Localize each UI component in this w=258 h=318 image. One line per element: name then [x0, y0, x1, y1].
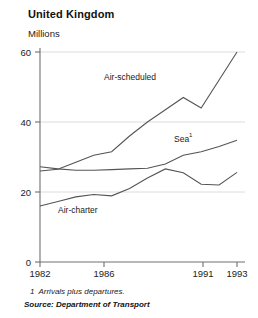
y-tick-label-20: 20 — [20, 187, 31, 198]
y-tick-label-0: 0 — [26, 257, 31, 268]
y-tick-label-60: 60 — [20, 47, 31, 58]
source-note: Source: Department of Transport — [24, 300, 150, 309]
footnote-marker: 1 — [30, 287, 34, 296]
x-tick-label-1991: 1991 — [192, 268, 213, 279]
footnote-text: Arrivals plus departures. — [38, 287, 124, 296]
x-tick-label-1986: 1986 — [93, 268, 114, 279]
x-tick-label-1993: 1993 — [226, 268, 247, 279]
series-label-sea: Sea — [174, 134, 189, 144]
footnote: 1Arrivals plus departures. — [30, 287, 125, 296]
series-label-sea-superscript: 1 — [189, 132, 193, 138]
chart-figure: United Kingdom Millions 60 40 20 0 — [0, 0, 258, 318]
line-chart-plot: 60 40 20 0 1982 1986 1991 1993 Air-sched… — [0, 0, 258, 318]
series-line-air-scheduled — [40, 52, 237, 171]
series-line-air-charter — [40, 169, 237, 206]
x-tick-label-1982: 1982 — [29, 268, 50, 279]
series-line-sea — [40, 140, 237, 170]
series-label-air-scheduled: Air-scheduled — [104, 72, 156, 82]
y-tick-label-40: 40 — [20, 117, 31, 128]
x-axis-ticks — [40, 262, 237, 267]
series-label-air-charter: Air-charter — [58, 205, 98, 215]
y-axis-ticks — [35, 52, 40, 262]
